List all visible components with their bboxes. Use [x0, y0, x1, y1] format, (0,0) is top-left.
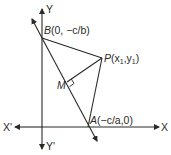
diagram: Y Y' X X' B(0, −c/b) P(x1,y1) M A(−c/a,0…	[0, 0, 171, 155]
x-prime-axis-label: X'	[3, 121, 12, 133]
point-p-label: P(x1,y1)	[104, 52, 139, 65]
line-ba	[32, 19, 42, 38]
point-b-label: B(0, −c/b)	[44, 24, 90, 36]
point-a-label: A(−c/a,0)	[89, 114, 133, 126]
geometry-figure: Y Y' X X' B(0, −c/b) P(x1,y1) M A(−c/a,0…	[0, 0, 171, 155]
x-axis-label: X	[161, 121, 168, 133]
point-m-label: M	[57, 79, 66, 91]
y-axis-label: Y	[46, 3, 53, 15]
segment-pm	[67, 58, 102, 82]
y-prime-axis-label: Y'	[46, 140, 55, 152]
